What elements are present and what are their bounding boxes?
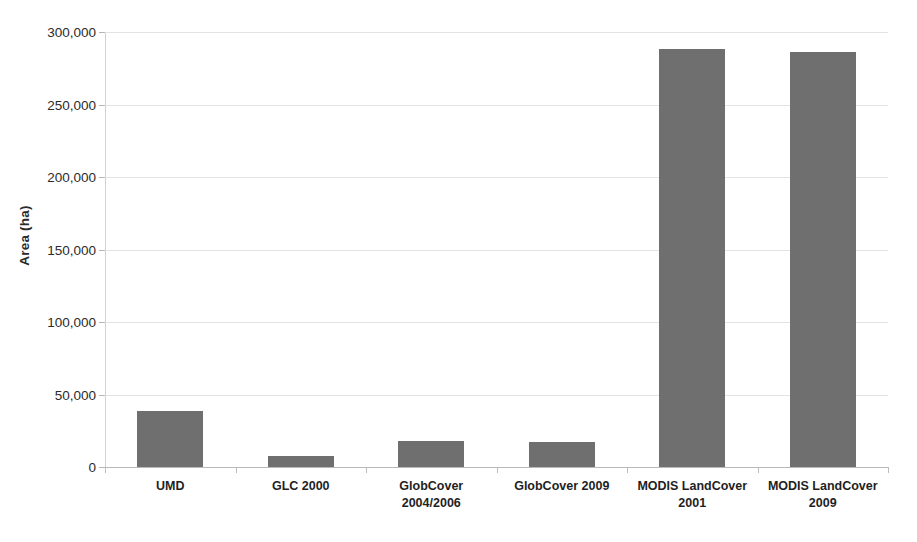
bar-chart: Area (ha) 300,000250,000200,000150,00010… [0,0,917,542]
y-axis-tick-labels: 300,000250,000200,000150,000100,00050,00… [6,0,96,542]
bar [398,441,464,468]
bar [137,411,203,468]
x-axis-tick [236,468,237,473]
bar [659,49,725,468]
bar [790,52,856,468]
x-axis-tick [105,468,106,473]
x-axis-category-label: GLC 2000 [236,478,367,495]
bar [529,442,595,468]
x-axis-category-label: MODIS LandCover 2009 [758,478,889,512]
x-axis-category-label: GlobCover 2009 [497,478,628,495]
y-axis-tick-label: 200,000 [10,170,96,185]
y-axis-tick-label: 50,000 [10,387,96,402]
y-axis-tick-label: 100,000 [10,315,96,330]
y-axis-tick-label: 150,000 [10,242,96,257]
x-axis-tick [627,468,628,473]
y-axis-tick-label: 300,000 [10,25,96,40]
x-axis-tick [758,468,759,473]
x-axis-category-label: UMD [105,478,236,495]
y-axis-tick-label: 0 [10,460,96,475]
x-axis-tick [888,468,889,473]
x-axis-category-label: MODIS LandCover 2001 [627,478,758,512]
y-axis-tick-label: 250,000 [10,97,96,112]
x-axis-tick [497,468,498,473]
x-axis-tick [366,468,367,473]
bar-series [105,32,888,468]
x-axis-category-label: GlobCover 2004/2006 [366,478,497,512]
